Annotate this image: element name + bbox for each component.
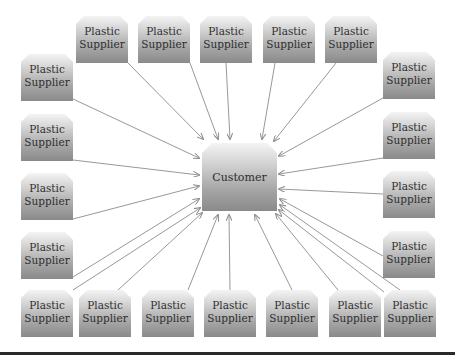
arrow-t1 (128, 63, 203, 139)
supplier-node: Plastic Supplier (263, 16, 315, 63)
supplier-label-line2: Supplier (79, 38, 124, 51)
supplier-label-line1: Plastic (29, 241, 65, 254)
supplier-label-line1: Plastic (87, 299, 123, 312)
arrow-b3 (188, 215, 218, 290)
arrow-b1 (73, 208, 200, 290)
supplier-node: Plastic Supplier (383, 112, 435, 159)
supplier-label-line1: Plastic (391, 61, 427, 74)
supplier-label-line2: Supplier (24, 254, 69, 267)
supplier-node: Plastic Supplier (21, 232, 73, 279)
supplier-label-line1: Plastic (84, 25, 120, 38)
arrow-l3 (73, 186, 199, 219)
supplier-node: Plastic Supplier (383, 231, 435, 278)
supplier-node: Plastic Supplier (79, 290, 131, 337)
customer-label: Customer (212, 171, 266, 184)
arrow-t2 (190, 63, 218, 139)
arrow-b6 (276, 214, 338, 290)
arrow-r1 (279, 98, 383, 156)
supplier-label-line1: Plastic (391, 121, 427, 134)
supplier-label-line2: Supplier (386, 193, 431, 206)
supplier-label-line1: Plastic (391, 240, 427, 253)
supplier-label-line2: Supplier (387, 312, 432, 325)
supplier-label-line2: Supplier (328, 38, 373, 51)
supplier-label-line1: Plastic (212, 299, 248, 312)
supplier-label-line2: Supplier (332, 312, 377, 325)
supplier-node: Plastic Supplier (329, 290, 381, 337)
supplier-network-diagram: Customer Plastic Supplier Plastic Suppli… (0, 0, 455, 358)
supplier-label-line1: Plastic (333, 25, 369, 38)
supplier-node: Plastic Supplier (383, 52, 435, 99)
arrow-r4 (280, 199, 383, 256)
supplier-node: Plastic Supplier (325, 16, 377, 63)
supplier-label-line1: Plastic (150, 299, 186, 312)
supplier-label-line1: Plastic (29, 123, 65, 136)
supplier-label-line1: Plastic (274, 299, 310, 312)
supplier-label-line2: Supplier (386, 253, 431, 266)
supplier-node: Plastic Supplier (266, 290, 318, 337)
supplier-node: Plastic Supplier (21, 290, 73, 337)
supplier-label-line2: Supplier (24, 136, 69, 149)
supplier-node: Plastic Supplier (384, 290, 436, 337)
supplier-node: Plastic Supplier (383, 171, 435, 218)
arrow-b2 (118, 213, 202, 290)
supplier-label-line2: Supplier (24, 195, 69, 208)
arrow-l4 (73, 199, 199, 277)
supplier-label-line2: Supplier (386, 74, 431, 87)
supplier-label-line1: Plastic (29, 182, 65, 195)
supplier-label-line2: Supplier (24, 312, 69, 325)
arrow-t4 (262, 63, 275, 139)
supplier-label-line2: Supplier (386, 134, 431, 147)
supplier-label-line1: Plastic (29, 299, 65, 312)
arrow-l2 (73, 160, 199, 175)
supplier-label-line2: Supplier (207, 312, 252, 325)
supplier-label-line1: Plastic (337, 299, 373, 312)
supplier-node: Plastic Supplier (21, 54, 73, 101)
arrow-r3 (279, 189, 383, 194)
supplier-node: Plastic Supplier (204, 290, 256, 337)
arrow-b4 (229, 215, 230, 290)
supplier-label-line2: Supplier (145, 312, 190, 325)
supplier-label-line2: Supplier (269, 312, 314, 325)
supplier-label-line2: Supplier (24, 76, 69, 89)
supplier-node: Plastic Supplier (21, 173, 73, 220)
arrow-b8 (280, 205, 400, 290)
arrow-b7 (279, 210, 384, 292)
supplier-node: Plastic Supplier (21, 114, 73, 161)
customer-node: Customer (202, 143, 277, 211)
supplier-label-line1: Plastic (392, 299, 428, 312)
supplier-label-line1: Plastic (271, 25, 307, 38)
supplier-label-line1: Plastic (208, 25, 244, 38)
supplier-label-line2: Supplier (141, 38, 186, 51)
supplier-label-line1: Plastic (29, 63, 65, 76)
supplier-label-line1: Plastic (146, 25, 182, 38)
supplier-label-line2: Supplier (203, 38, 248, 51)
arrow-l1 (73, 99, 199, 158)
bottom-rule-divider (0, 352, 455, 355)
supplier-label-line2: Supplier (266, 38, 311, 51)
supplier-label-line1: Plastic (391, 180, 427, 193)
supplier-node: Plastic Supplier (200, 16, 252, 63)
supplier-label-line2: Supplier (82, 312, 127, 325)
supplier-node: Plastic Supplier (76, 16, 128, 63)
supplier-node: Plastic Supplier (142, 290, 194, 337)
arrow-t3 (226, 63, 230, 139)
supplier-node: Plastic Supplier (138, 16, 190, 63)
arrow-r2 (279, 158, 383, 174)
